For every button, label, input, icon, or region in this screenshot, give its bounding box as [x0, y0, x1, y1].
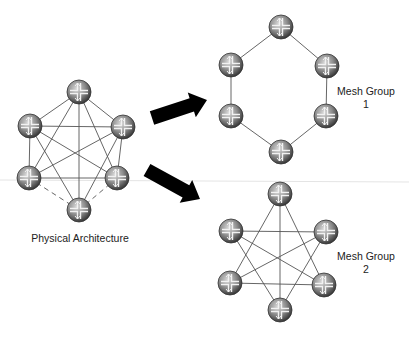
link-edge — [79, 92, 117, 178]
group2-graph — [230, 194, 326, 310]
link-edge — [230, 283, 324, 285]
router-icon — [219, 53, 243, 77]
physical-architecture-label: Physical Architecture — [0, 232, 160, 245]
edges — [29, 27, 327, 310]
router-icon — [218, 271, 242, 295]
router-icon — [269, 140, 293, 164]
group2-nodes — [218, 182, 338, 322]
physical-nodes — [17, 80, 135, 222]
link-edge — [231, 231, 280, 310]
mesh-group-2-label: Mesh Group 2 — [330, 250, 402, 276]
arrow-icon — [150, 93, 207, 125]
router-icon — [315, 54, 339, 78]
router-icon — [219, 104, 243, 128]
router-icon — [67, 198, 91, 222]
router-icon — [105, 166, 129, 190]
router-icon — [312, 273, 336, 297]
mesh-group-2-title: Mesh Group — [330, 250, 402, 263]
arrows — [144, 93, 207, 203]
physical-graph — [29, 92, 123, 210]
mesh-group-diagram — [0, 0, 409, 343]
router-icon — [314, 220, 338, 244]
router-icon — [268, 182, 292, 206]
router-icon — [219, 219, 243, 243]
mesh-group-1-label: Mesh Group 1 — [330, 85, 402, 111]
link-edge — [30, 126, 123, 127]
group1-graph — [231, 27, 327, 152]
router-nodes — [17, 15, 339, 322]
mesh-group-1-number: 1 — [330, 98, 402, 111]
router-icon — [268, 298, 292, 322]
link-edge — [30, 126, 79, 210]
router-icon — [67, 80, 91, 104]
mesh-group-1-title: Mesh Group — [330, 85, 402, 98]
router-icon — [111, 115, 135, 139]
router-icon — [269, 15, 293, 39]
router-icon — [18, 114, 42, 138]
link-edge — [231, 231, 326, 232]
arrow-icon — [144, 164, 200, 203]
router-icon — [17, 166, 41, 190]
group1-nodes — [219, 15, 339, 164]
link-edge — [280, 232, 326, 310]
mesh-group-2-number: 2 — [330, 263, 402, 276]
